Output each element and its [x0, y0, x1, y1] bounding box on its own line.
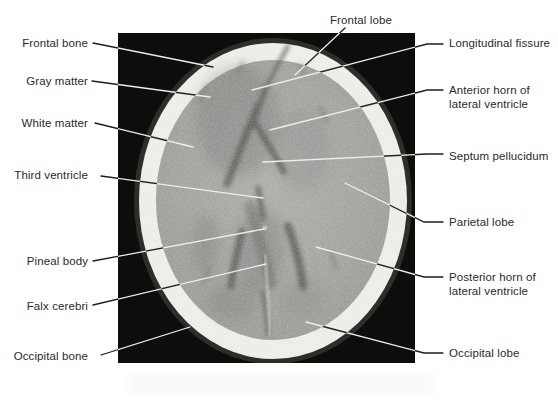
- label-line: Anterior horn of: [449, 83, 530, 97]
- label-occipital-lobe: Occipital lobe: [449, 346, 519, 360]
- label-line: Gray matter: [26, 74, 88, 88]
- skull-grain: [139, 43, 407, 359]
- label-line: lateral ventricle: [449, 284, 536, 298]
- label-line: Occipital lobe: [449, 346, 519, 360]
- label-septum-pellucidum: Septum pellucidum: [449, 149, 549, 163]
- label-longitudinal-fissure: Longitudinal fissure: [449, 36, 550, 50]
- label-pineal-body: Pineal body: [27, 254, 88, 268]
- figure-page: Frontal boneGray matterWhite matterThird…: [0, 0, 558, 401]
- label-line: Third ventricle: [14, 168, 88, 182]
- ct-scan-image: [118, 33, 415, 364]
- label-line: Occipital bone: [14, 349, 88, 363]
- label-posterior-horn: Posterior horn oflateral ventricle: [449, 270, 536, 298]
- label-white-matter: White matter: [22, 116, 88, 130]
- label-line: Frontal lobe: [330, 13, 392, 27]
- label-falx-cerebri: Falx cerebri: [27, 299, 88, 313]
- label-line: Parietal lobe: [449, 215, 514, 229]
- label-gray-matter: Gray matter: [26, 74, 88, 88]
- label-line: Falx cerebri: [27, 299, 88, 313]
- label-line: Pineal body: [27, 254, 88, 268]
- label-line: lateral ventricle: [449, 97, 530, 111]
- label-third-ventricle: Third ventricle: [14, 168, 88, 182]
- label-line: Longitudinal fissure: [449, 36, 550, 50]
- page-scan-shadow: [130, 374, 435, 394]
- label-frontal-lobe: Frontal lobe: [330, 13, 392, 27]
- label-line: Posterior horn of: [449, 270, 536, 284]
- label-anterior-horn: Anterior horn oflateral ventricle: [449, 83, 530, 111]
- label-line: White matter: [22, 116, 88, 130]
- label-line: Septum pellucidum: [449, 149, 549, 163]
- label-parietal-lobe: Parietal lobe: [449, 215, 514, 229]
- label-frontal-bone: Frontal bone: [22, 36, 88, 50]
- label-line: Frontal bone: [22, 36, 88, 50]
- label-occipital-bone: Occipital bone: [14, 349, 88, 363]
- brain-ct-figure: [0, 0, 558, 401]
